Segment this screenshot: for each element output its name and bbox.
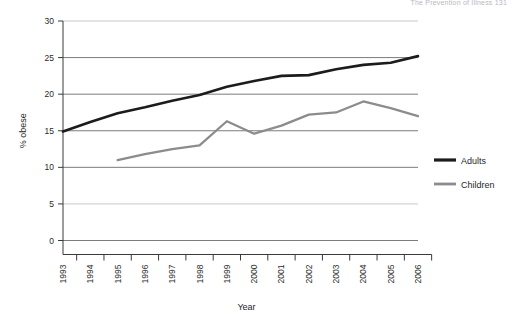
legend-label-children: Children [461, 180, 495, 190]
y-axis-labels: 051015202530 [45, 16, 55, 246]
gridlines-group [63, 21, 418, 241]
y-tick-label: 15 [45, 126, 55, 136]
y-tick-label: 5 [49, 199, 54, 209]
x-tick-label: 2006 [413, 264, 423, 283]
x-tick-label: 2001 [276, 264, 286, 283]
x-tick-label: 1996 [140, 264, 150, 283]
x-tick-label: 1994 [85, 264, 95, 283]
y-tick-label: 10 [45, 162, 55, 172]
x-tick-label: 2002 [304, 264, 314, 283]
x-axis-labels: 1993199419951996199719981999200020012002… [58, 264, 423, 283]
x-tick-label: 2004 [358, 264, 368, 283]
y-tick-label: 25 [45, 53, 55, 63]
chart-container: The Prevention of Illness 131 0510152025… [0, 0, 513, 324]
line-chart-svg: 051015202530 199319941995199619971998199… [0, 0, 513, 324]
y-tick-group [58, 21, 63, 255]
y-tick-label: 0 [49, 236, 54, 246]
series-group [63, 56, 418, 160]
x-tick-label: 1998 [195, 264, 205, 283]
x-tick-label: 2003 [331, 264, 341, 283]
y-axis-title: % obese [18, 113, 28, 148]
x-tick-label: 1997 [167, 264, 177, 283]
x-tick-group [63, 255, 432, 261]
x-tick-label: 1999 [222, 264, 232, 283]
y-tick-label: 30 [45, 16, 55, 26]
x-tick-label: 1993 [58, 264, 68, 283]
y-tick-label: 20 [45, 89, 55, 99]
legend-label-adults: Adults [461, 156, 487, 166]
x-tick-label: 2000 [249, 264, 259, 283]
x-tick-label: 1995 [113, 264, 123, 283]
legend: AdultsChildren [434, 156, 495, 190]
x-axis-title: Year [237, 302, 255, 312]
x-tick-label: 2005 [386, 264, 396, 283]
